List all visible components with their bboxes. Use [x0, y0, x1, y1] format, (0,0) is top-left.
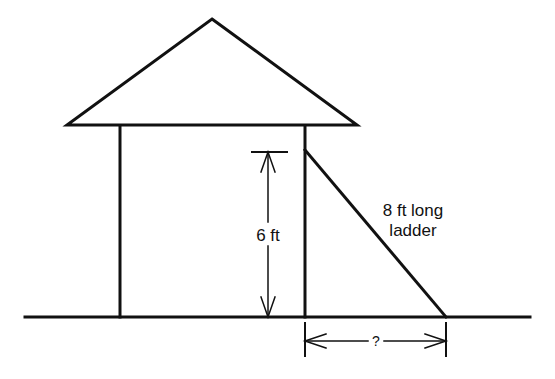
- unknown-distance-label: ?: [372, 333, 380, 349]
- ladder-label-line1: 8 ft long: [383, 201, 444, 220]
- ladder-label-line2: ladder: [389, 221, 437, 240]
- height-label: 6 ft: [256, 226, 280, 245]
- house-roof: [67, 19, 357, 125]
- ladder-diagram: 6 ft 8 ft long ladder ?: [0, 0, 555, 379]
